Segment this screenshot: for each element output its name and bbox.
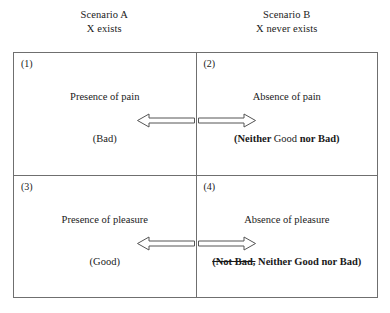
quadrant-3-valuation: (Good) <box>14 256 196 267</box>
quadrant-2-statement: Absence of pain <box>197 91 378 102</box>
quadrant-2-cell: (2) Absence of pain (Neither Good nor Ba… <box>196 53 378 175</box>
quadrant-1-statement: Presence of pain <box>14 91 196 102</box>
quadrant-2-label: (2) <box>204 58 216 69</box>
scenario-a-title: Scenario A <box>13 8 196 22</box>
column-header-scenario-b: Scenario B X never exists <box>196 8 379 48</box>
asymmetry-matrix-figure: Scenario A X exists Scenario B X never e… <box>0 0 390 313</box>
arrow-left-icon <box>136 112 196 129</box>
quadrant-3-cell: (3) Presence of pleasure (Good) <box>14 175 196 297</box>
quadrant-table: (1) Presence of pain (Bad) (2) Absence o… <box>13 52 378 298</box>
quadrant-1-valuation: (Bad) <box>14 133 196 144</box>
arrow-right-icon <box>197 112 257 129</box>
quadrant-1-label: (1) <box>21 58 33 69</box>
quadrant-4-label: (4) <box>204 181 216 192</box>
arrow-right-icon <box>197 235 257 252</box>
scenario-b-title: Scenario B <box>196 8 379 22</box>
column-header-scenario-a: Scenario A X exists <box>13 8 196 48</box>
quadrant-3-statement: Presence of pleasure <box>14 214 196 225</box>
quadrant-4-statement: Absence of pleasure <box>197 214 378 225</box>
scenario-b-subtitle: X never exists <box>196 22 379 36</box>
quadrant-3-label: (3) <box>21 181 33 192</box>
arrow-left-icon <box>136 235 196 252</box>
quadrant-4-cell: (4) Absence of pleasure (Not Bad, Neithe… <box>196 175 378 297</box>
quadrant-2-valuation: (Neither Good nor Bad) <box>197 133 378 144</box>
quadrant-1-cell: (1) Presence of pain (Bad) <box>14 53 196 175</box>
scenario-a-subtitle: X exists <box>13 22 196 36</box>
quadrant-4-valuation: (Not Bad, Neither Good nor Bad) <box>197 256 378 267</box>
column-headers: Scenario A X exists Scenario B X never e… <box>13 8 378 48</box>
